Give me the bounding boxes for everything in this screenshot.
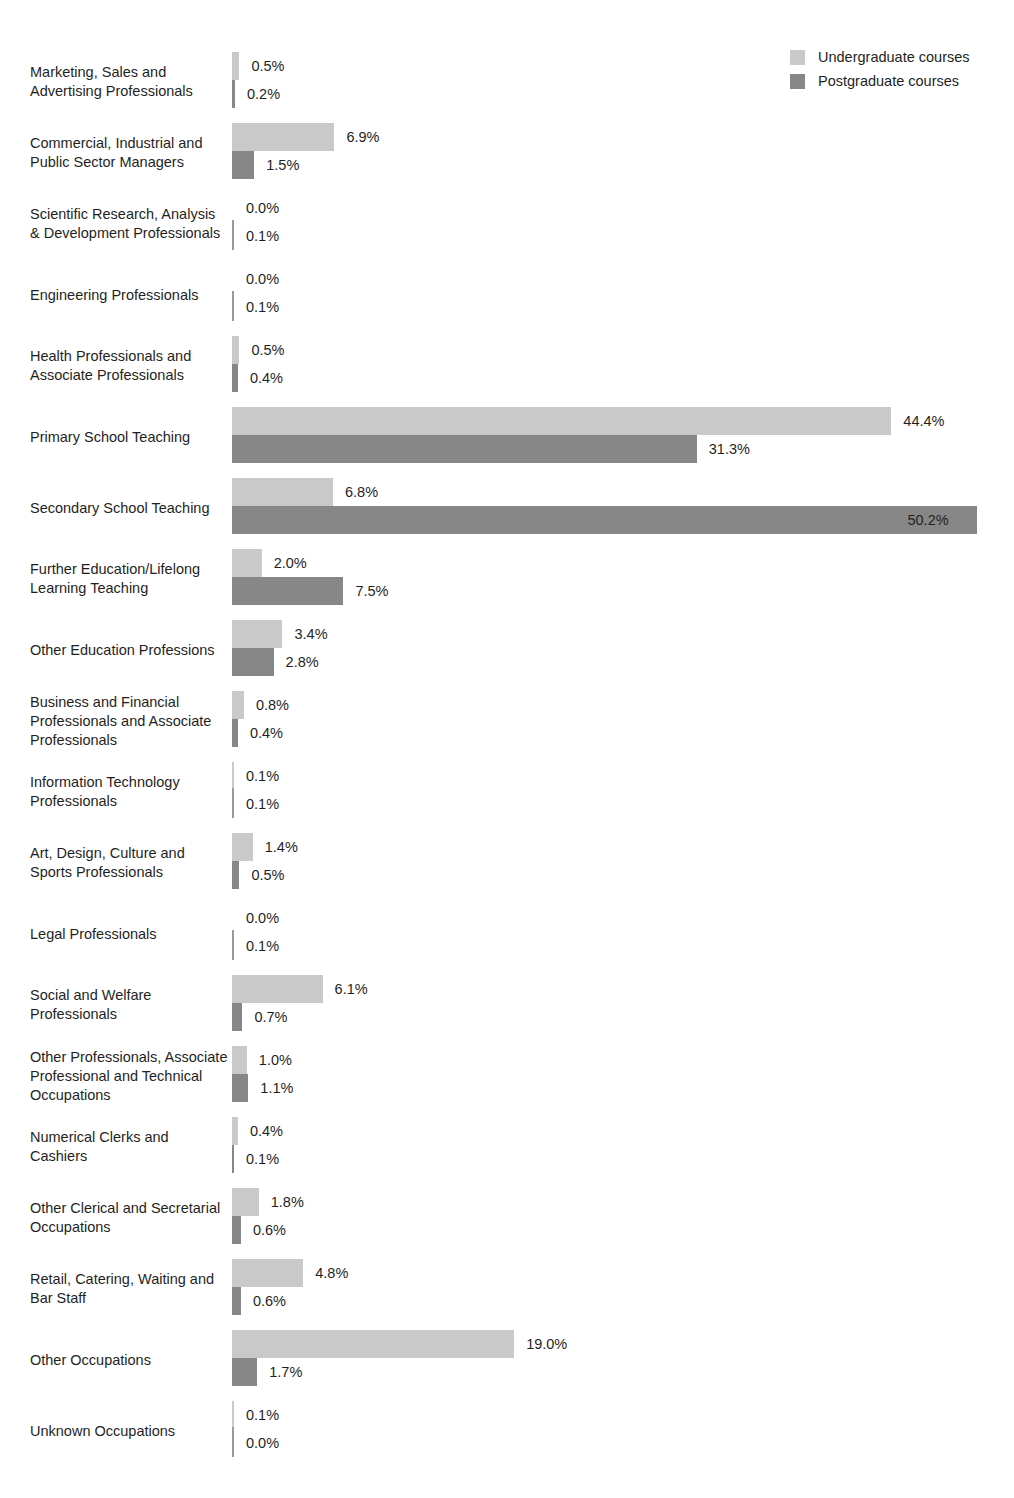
category-label: Other Professionals, Associate Professio…: [30, 1048, 228, 1105]
category-label: Scientific Research, Analysis & Developm…: [30, 205, 228, 243]
zero-value-tick: [232, 220, 234, 250]
bar-value-label: 1.0%: [259, 1052, 292, 1068]
category-label: Further Education/Lifelong Learning Teac…: [30, 560, 228, 598]
bar-undergraduate[interactable]: [232, 336, 239, 364]
bar-undergraduate[interactable]: [232, 1188, 259, 1216]
bar-undergraduate[interactable]: [232, 1046, 247, 1074]
bar-undergraduate[interactable]: [232, 478, 333, 506]
bar-undergraduate[interactable]: [232, 833, 253, 861]
category-label: Legal Professionals: [30, 925, 228, 944]
category-label: Business and Financial Professionals and…: [30, 693, 228, 750]
bar-value-label: 0.4%: [250, 725, 283, 741]
bar-postgraduate[interactable]: [232, 1287, 241, 1315]
bar-value-label: 1.4%: [265, 839, 298, 855]
category-label: Numerical Clerks and Cashiers: [30, 1128, 228, 1166]
zero-value-tick: [232, 788, 234, 818]
bar-value-label: 19.0%: [526, 1336, 567, 1352]
bar-value-label: 0.0%: [246, 271, 279, 287]
chart-row: Social and Welfare Professionals6.1%0.7%: [0, 975, 1014, 1035]
bar-value-label: 6.1%: [335, 981, 368, 997]
bar-undergraduate[interactable]: [232, 1259, 303, 1287]
bar-value-label: 0.1%: [246, 768, 279, 784]
bar-undergraduate[interactable]: [232, 762, 234, 790]
bar-value-label: 44.4%: [903, 413, 944, 429]
bar-postgraduate[interactable]: [232, 577, 343, 605]
bar-value-label: 1.1%: [260, 1080, 293, 1096]
chart-row: Health Professionals and Associate Profe…: [0, 336, 1014, 396]
chart-row: Other Education Professions3.4%2.8%: [0, 620, 1014, 680]
category-label: Primary School Teaching: [30, 428, 228, 447]
bar-undergraduate[interactable]: [232, 123, 334, 151]
chart-row: Further Education/Lifelong Learning Teac…: [0, 549, 1014, 609]
bar-value-label: 50.2%: [907, 512, 948, 528]
bar-value-label: 3.4%: [294, 626, 327, 642]
bar-value-label: 0.5%: [251, 58, 284, 74]
bar-postgraduate[interactable]: [232, 1358, 257, 1386]
chart-row: Primary School Teaching44.4%31.3%: [0, 407, 1014, 467]
zero-value-tick: [232, 291, 234, 321]
bar-value-label: 0.4%: [250, 1123, 283, 1139]
bar-value-label: 0.0%: [246, 1435, 279, 1451]
bar-value-label: 4.8%: [315, 1265, 348, 1281]
zero-value-tick: [232, 930, 234, 960]
bar-value-label: 0.4%: [250, 370, 283, 386]
bar-undergraduate[interactable]: [232, 975, 323, 1003]
bar-postgraduate[interactable]: [232, 364, 238, 392]
bar-value-label: 0.6%: [253, 1293, 286, 1309]
category-label: Art, Design, Culture and Sports Professi…: [30, 844, 228, 882]
bar-postgraduate[interactable]: [232, 648, 274, 676]
bar-value-label: 0.5%: [251, 342, 284, 358]
bar-value-label: 0.1%: [246, 1407, 279, 1423]
bar-value-label: 0.1%: [246, 1151, 279, 1167]
bar-postgraduate[interactable]: [232, 1145, 234, 1173]
chart-row: Art, Design, Culture and Sports Professi…: [0, 833, 1014, 893]
chart-row: Secondary School Teaching6.8%50.2%: [0, 478, 1014, 538]
bar-value-label: 31.3%: [709, 441, 750, 457]
bar-postgraduate[interactable]: [232, 506, 977, 534]
category-label: Marketing, Sales and Advertising Profess…: [30, 63, 228, 101]
category-label: Unknown Occupations: [30, 1422, 228, 1441]
chart-row: Engineering Professionals0.0%0.1%: [0, 265, 1014, 325]
bar-value-label: 0.1%: [246, 796, 279, 812]
bar-postgraduate[interactable]: [232, 719, 238, 747]
bar-undergraduate[interactable]: [232, 549, 262, 577]
bar-postgraduate[interactable]: [232, 861, 239, 889]
category-label: Health Professionals and Associate Profe…: [30, 347, 228, 385]
bar-value-label: 1.8%: [271, 1194, 304, 1210]
bar-undergraduate[interactable]: [232, 691, 244, 719]
chart-row: Business and Financial Professionals and…: [0, 691, 1014, 751]
bar-value-label: 0.0%: [246, 910, 279, 926]
bar-value-label: 0.5%: [251, 867, 284, 883]
category-label: Other Clerical and Secretarial Occupatio…: [30, 1199, 228, 1237]
bar-postgraduate[interactable]: [232, 435, 697, 463]
bar-undergraduate[interactable]: [232, 52, 239, 80]
bar-undergraduate[interactable]: [232, 620, 282, 648]
chart-row: Retail, Catering, Waiting and Bar Staff4…: [0, 1259, 1014, 1319]
chart-row: Commercial, Industrial and Public Sector…: [0, 123, 1014, 183]
bar-postgraduate[interactable]: [232, 1216, 241, 1244]
bar-undergraduate[interactable]: [232, 265, 234, 293]
bar-value-label: 0.1%: [246, 938, 279, 954]
bar-postgraduate[interactable]: [232, 151, 254, 179]
bar-undergraduate[interactable]: [232, 1330, 514, 1358]
bar-undergraduate[interactable]: [232, 1117, 238, 1145]
chart-row: Other Professionals, Associate Professio…: [0, 1046, 1014, 1106]
bar-postgraduate[interactable]: [232, 1003, 242, 1031]
bar-postgraduate[interactable]: [232, 1074, 248, 1102]
zero-value-tick: [232, 1427, 234, 1457]
bar-postgraduate[interactable]: [232, 80, 235, 108]
bar-undergraduate[interactable]: [232, 407, 891, 435]
chart-row: Marketing, Sales and Advertising Profess…: [0, 52, 1014, 112]
bar-undergraduate[interactable]: [232, 194, 234, 222]
category-label: Other Education Professions: [30, 641, 228, 660]
bar-undergraduate[interactable]: [232, 904, 234, 932]
bar-value-label: 0.7%: [254, 1009, 287, 1025]
bar-undergraduate[interactable]: [232, 1401, 234, 1429]
bar-value-label: 0.2%: [247, 86, 280, 102]
category-label: Secondary School Teaching: [30, 499, 228, 518]
bar-value-label: 0.8%: [256, 697, 289, 713]
bar-value-label: 1.5%: [266, 157, 299, 173]
bar-value-label: 2.0%: [274, 555, 307, 571]
chart-row: Other Clerical and Secretarial Occupatio…: [0, 1188, 1014, 1248]
bar-value-label: 2.8%: [286, 654, 319, 670]
